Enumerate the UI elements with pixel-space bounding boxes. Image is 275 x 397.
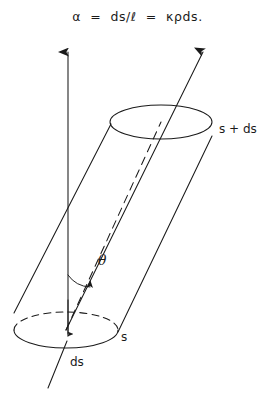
label-bottom-face: s xyxy=(121,330,127,344)
label-angle-theta: θ xyxy=(98,252,106,268)
cylinder-diagram xyxy=(0,0,275,397)
label-thickness: ds xyxy=(70,355,84,369)
cylinder-center-axis xyxy=(66,122,161,330)
cylinder-right-edge xyxy=(118,136,212,332)
cylinder-left-edge xyxy=(14,124,111,313)
label-top-face: s + ds xyxy=(219,122,257,136)
figure-canvas: α = ds/ℓ = κρds. xyxy=(0,0,275,397)
tilted-axis-arrow xyxy=(66,52,203,330)
bottom-face-front-arc xyxy=(14,330,118,348)
bottom-face-back-arc xyxy=(14,312,118,330)
